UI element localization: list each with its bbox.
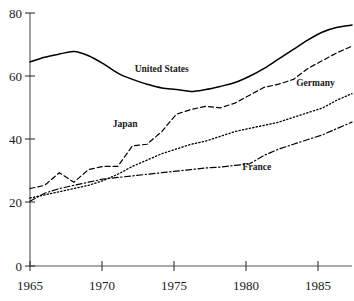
series-label-united-states: United States — [135, 64, 189, 74]
x-tick-label-1970: 1970 — [89, 278, 115, 293]
series-line-france — [30, 122, 352, 201]
series-label-germany: Germany — [296, 78, 335, 88]
x-tick-label-1985: 1985 — [305, 278, 331, 293]
series-line-germany — [30, 94, 352, 198]
y-tick-label-0: 0 — [16, 259, 23, 274]
chart-svg: 80 60 40 20 0 1965 1970 1975 1980 1985 U… — [0, 0, 354, 301]
y-tick-label-60: 60 — [9, 69, 22, 84]
series-line-japan — [30, 46, 352, 188]
x-tick-label-1980: 1980 — [233, 278, 259, 293]
series-label-france: France — [243, 162, 272, 172]
data-series-group — [30, 25, 352, 201]
y-tick-label-40: 40 — [9, 132, 22, 147]
y-tick-label-20: 20 — [9, 195, 22, 210]
series-labels-group: United States Japan Germany France — [113, 64, 335, 172]
x-tick-label-1975: 1975 — [161, 278, 187, 293]
series-label-japan: Japan — [113, 119, 139, 129]
x-tick-label-1965: 1965 — [17, 278, 43, 293]
line-chart: 80 60 40 20 0 1965 1970 1975 1980 1985 U… — [0, 0, 354, 301]
y-tick-label-80: 80 — [9, 6, 22, 21]
